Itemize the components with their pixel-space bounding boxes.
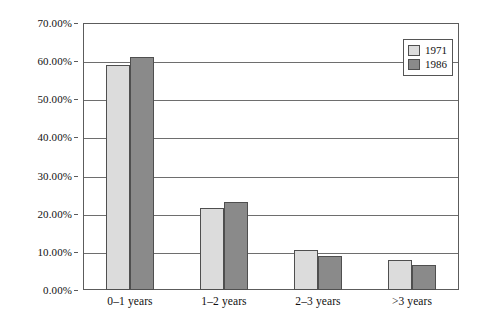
y-tick-label: 50.00% — [37, 94, 72, 105]
y-tick-mark — [74, 252, 78, 253]
x-tick-label: 1–2 years — [201, 294, 246, 308]
gridline — [84, 100, 458, 101]
y-tick-mark — [74, 99, 78, 100]
y-tick-mark — [74, 214, 78, 215]
x-axis: 0–1 years1–2 years2–3 years>3 years — [83, 294, 459, 320]
y-tick-mark — [74, 176, 78, 177]
gridline — [84, 215, 458, 216]
x-tick-label: 0–1 years — [107, 294, 152, 308]
y-tick-mark — [74, 61, 78, 62]
gridline — [84, 62, 458, 63]
y-tick-label: 0.00% — [43, 285, 72, 296]
x-tick-label: 2–3 years — [295, 294, 340, 308]
y-tick-label: 70.00% — [37, 18, 72, 29]
y-tick-mark — [74, 23, 78, 24]
y-tick-label: 60.00% — [37, 56, 72, 67]
y-tick-label: 40.00% — [37, 132, 72, 143]
legend-item-1986: 1986 — [408, 58, 447, 71]
gridline — [84, 138, 458, 139]
legend-label: 1971 — [425, 45, 447, 56]
legend-item-1971: 1971 — [408, 44, 447, 57]
y-tick-label: 20.00% — [37, 208, 72, 219]
bar-chart: 0.00%10.00%20.00%30.00%40.00%50.00%60.00… — [0, 0, 483, 326]
gridline — [84, 253, 458, 254]
y-axis: 0.00%10.00%20.00%30.00%40.00%50.00%60.00… — [0, 23, 78, 290]
y-tick-mark — [74, 137, 78, 138]
legend-swatch-icon — [408, 59, 420, 70]
gridline — [84, 177, 458, 178]
x-tick-label: >3 years — [392, 294, 432, 308]
y-tick-label: 30.00% — [37, 170, 72, 181]
legend: 19711986 — [403, 39, 453, 76]
y-tick-label: 10.00% — [37, 246, 72, 257]
y-tick-mark — [74, 290, 78, 291]
legend-label: 1986 — [425, 59, 447, 70]
legend-swatch-icon — [408, 45, 420, 56]
